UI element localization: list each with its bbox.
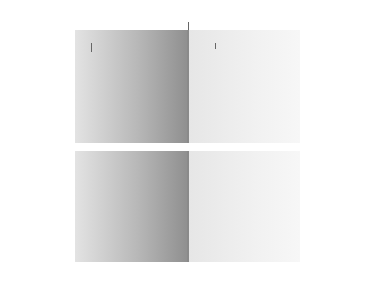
electron-pointer-line — [215, 43, 216, 49]
hole-pointer-line — [91, 43, 92, 52]
top-n-region — [188, 30, 300, 143]
bottom-p-region — [75, 151, 188, 262]
junction-pointer-line — [188, 22, 189, 30]
bottom-junction-boundary — [187, 151, 189, 262]
bottom-n-region — [188, 151, 300, 262]
top-junction-boundary — [187, 30, 189, 143]
